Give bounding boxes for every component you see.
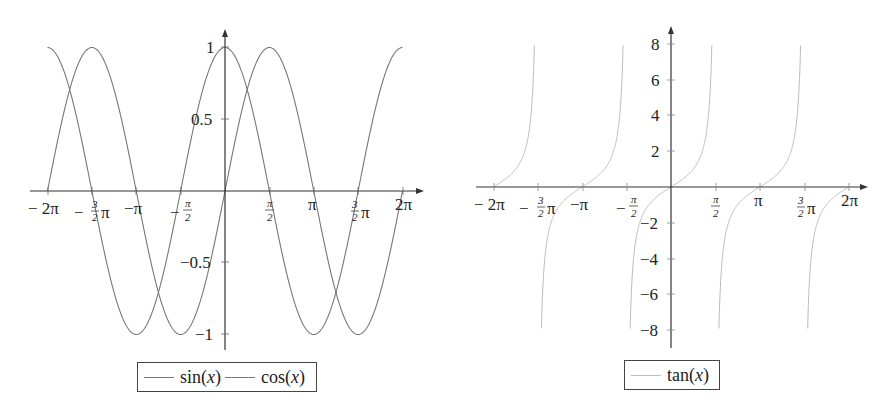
x-label-3-2-pi-num: 3: [797, 194, 804, 206]
x-label-neg-pi-2-den: 2: [631, 207, 637, 219]
y-label-4: 4: [651, 106, 660, 125]
x-label-2pi: 2π: [395, 195, 413, 214]
x-label-neg-2pi: − 2π: [474, 195, 505, 214]
x-axis-arrow-icon: [860, 184, 868, 190]
x-label-pi-2-den: 2: [713, 207, 719, 219]
x-label-neg-3-2-pi-pi: π: [101, 203, 110, 222]
x-label-3-2-pi-den: 2: [352, 211, 358, 223]
x-label-pi-2-num: π: [267, 197, 273, 209]
x-label-neg-3-2-pi-num: 3: [537, 194, 544, 206]
y-label-neg-2: −2: [640, 214, 658, 233]
y-label-neg-0-5: −0.5: [180, 253, 211, 272]
legend-sin-cos: sin(x) cos(x): [137, 362, 317, 392]
legend-arg: x: [207, 367, 215, 387]
legend-label-cos: cos: [261, 367, 285, 387]
legend-entry-tan: tan(x): [631, 365, 709, 386]
legend-label-sin: sin: [180, 367, 201, 387]
x-label-neg-pi-2-minus: −: [616, 199, 626, 218]
y-label-neg-4: −4: [640, 250, 659, 269]
legend-arg: x: [695, 365, 703, 385]
y-label-8: 8: [651, 35, 660, 54]
legend-entry-cos: cos(x): [225, 367, 305, 388]
legend-line-icon: [631, 375, 661, 376]
x-label-neg-3-2-pi-minus: −: [519, 199, 529, 218]
legend-label-tan: tan: [667, 365, 689, 385]
y-label-0-5: 0.5: [191, 110, 212, 129]
legend-line-icon: [225, 377, 255, 378]
x-label-neg-pi: −π: [124, 199, 143, 218]
chart-canvas: − 2π − 3 2 π −π − π 2 π 2 π 3 2 π 2π 1 0…: [0, 0, 891, 420]
legend-entry-sin: sin(x): [144, 367, 221, 388]
x-label-pi: π: [754, 191, 763, 210]
right-chart: − 2π − 3 2 π −π − π 2 π 2 π 3 2 π 2π 8 6…: [474, 26, 868, 348]
x-axis-arrow-icon: [416, 188, 424, 194]
y-label-2: 2: [651, 142, 660, 161]
y-axis-arrow-icon: [222, 29, 228, 37]
x-label-neg-2pi: − 2π: [28, 199, 59, 218]
x-label-neg-3-2-pi-pi: π: [547, 199, 556, 218]
x-label-neg-pi: −π: [570, 195, 589, 214]
y-axis-arrow-icon: [668, 26, 674, 34]
x-label-neg-pi-2-num: π: [631, 193, 637, 205]
legend-line-icon: [144, 377, 174, 378]
x-label-pi-2-num: π: [713, 193, 719, 205]
x-label-neg-pi-2-minus: −: [170, 203, 180, 222]
x-label-3-2-pi-den: 2: [798, 207, 804, 219]
y-label-neg-1: −1: [195, 325, 213, 344]
y-label-6: 6: [651, 71, 660, 90]
x-label-neg-3-2-pi-den: 2: [538, 207, 544, 219]
x-label-neg-pi-2-den: 2: [185, 211, 191, 223]
x-label-neg-3-2-pi-minus: −: [74, 203, 84, 222]
x-label-3-2-pi-pi: π: [361, 203, 370, 222]
legend-arg: x: [291, 367, 299, 387]
x-label-2pi: 2π: [841, 191, 859, 210]
x-label-3-2-pi-pi: π: [807, 199, 816, 218]
x-label-neg-3-2-pi-num: 3: [91, 198, 98, 210]
x-label-neg-pi-2-num: π: [185, 197, 191, 209]
x-label-pi: π: [308, 195, 317, 214]
left-chart: − 2π − 3 2 π −π − π 2 π 2 π 3 2 π 2π 1 0…: [28, 29, 424, 350]
y-label-neg-8: −8: [640, 321, 658, 340]
x-label-neg-3-2-pi-den: 2: [92, 211, 98, 223]
y-label-1: 1: [206, 38, 215, 57]
x-label-3-2-pi-num: 3: [351, 198, 358, 210]
legend-tan: tan(x): [624, 360, 720, 390]
y-label-neg-6: −6: [640, 285, 658, 304]
x-label-pi-2-den: 2: [267, 211, 273, 223]
